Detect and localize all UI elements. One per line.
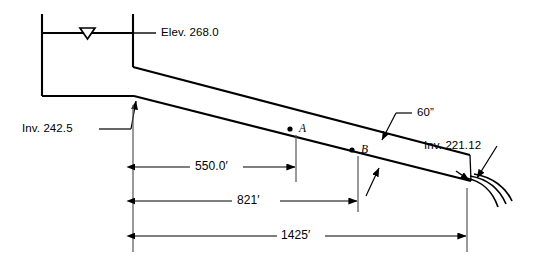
dimension-label-1425: 1425′	[281, 229, 310, 241]
reservoir-outline	[42, 14, 134, 96]
schematic-drawing	[0, 0, 538, 261]
downstream-invert-label: Inv. 221.12	[424, 140, 481, 152]
water-surface-elevation-label: Elev. 268.0	[161, 27, 219, 39]
point-a-marker	[287, 126, 292, 131]
upstream-invert-leader	[99, 101, 136, 129]
point-b-marker	[349, 147, 354, 152]
upstream-invert-label: Inv. 242.5	[22, 123, 73, 135]
dimension-label-821: 821′	[237, 194, 260, 206]
pipe-diameter-label: 60”	[417, 107, 434, 119]
discharge-jet-icon	[466, 174, 512, 207]
pipe-diameter-leader	[366, 113, 412, 196]
pipe-profile-diagram: Elev. 268.0 Inv. 242.5 60” Inv. 221.12 A…	[0, 0, 538, 261]
dimension-label-550: 550.0′	[195, 160, 228, 172]
point-b-label: B	[361, 144, 368, 156]
point-a-label: A	[299, 123, 306, 135]
